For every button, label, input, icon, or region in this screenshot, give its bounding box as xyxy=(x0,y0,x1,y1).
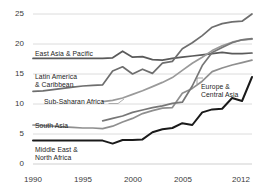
y-axis-tick-25: 25 xyxy=(8,10,24,18)
x-axis-tick-1995: 1995 xyxy=(68,176,98,184)
y-axis-tick-5: 5 xyxy=(8,130,24,138)
series-label-east-asia-pacific: East Asia & Pacific xyxy=(35,50,93,58)
x-axis-tick-2005: 2005 xyxy=(168,176,198,184)
series-label-sub-saharan-africa: Sub-Saharan Africa xyxy=(44,98,104,106)
x-axis-tick-2000: 2000 xyxy=(118,176,148,184)
y-axis-tick-0: 0 xyxy=(8,160,24,168)
series-line-europe-central-asia xyxy=(103,39,252,121)
y-axis-tick-20: 20 xyxy=(8,40,24,48)
series-label-europe-central-asia: Europe & Central Asia xyxy=(201,83,238,100)
series-label-middle-east-north-africa: Middle East & North Africa xyxy=(35,146,78,163)
line-chart: 25 20 15 10 5 0 1990 1995 2000 2005 2012… xyxy=(0,0,261,193)
x-axis-tick-1990: 1990 xyxy=(18,176,48,184)
series-label-latin-america-caribbean: Latin America & Caribbean xyxy=(35,73,77,90)
y-axis-tick-10: 10 xyxy=(8,100,24,108)
series-label-south-asia: South Asia xyxy=(35,122,68,130)
y-axis-tick-15: 15 xyxy=(8,70,24,78)
x-axis-tick-2012: 2012 xyxy=(226,176,256,184)
